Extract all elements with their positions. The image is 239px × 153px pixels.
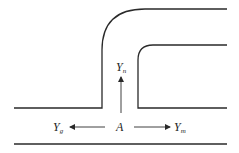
label-y-n-main: Y bbox=[116, 60, 123, 74]
label-y-n-sub: n bbox=[123, 67, 127, 75]
label-y-m-sub: m bbox=[181, 127, 186, 135]
label-a: A bbox=[116, 121, 123, 133]
label-a-main: A bbox=[116, 120, 123, 134]
outer-channel-wall bbox=[14, 9, 227, 108]
label-y-g-main: Y bbox=[53, 120, 60, 134]
label-y-n: Yn bbox=[116, 61, 126, 75]
junction-diagram: Yn A Yg Ym bbox=[0, 0, 239, 153]
inner-channel-wall bbox=[138, 45, 227, 108]
label-y-g: Yg bbox=[53, 121, 63, 135]
label-y-g-sub: g bbox=[60, 127, 64, 135]
label-y-m: Ym bbox=[174, 121, 186, 135]
label-y-m-main: Y bbox=[174, 120, 181, 134]
